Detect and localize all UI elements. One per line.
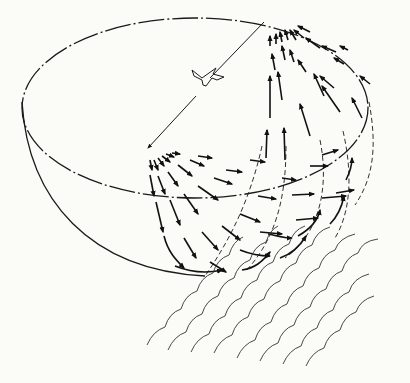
bird-icon — [192, 68, 224, 86]
diagram-canvas — [0, 0, 410, 383]
bowl-outline — [22, 102, 205, 276]
waves — [147, 226, 378, 366]
hemisphere-diagram — [0, 0, 410, 383]
meridians — [205, 102, 373, 276]
bird-line — [148, 22, 264, 148]
diverging-arrows — [150, 150, 338, 268]
converging-arrows — [266, 26, 370, 160]
